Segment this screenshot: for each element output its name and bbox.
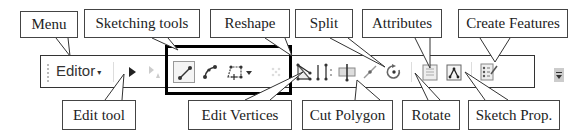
sketching-tools-highlight bbox=[165, 45, 292, 95]
editor-menu-button[interactable]: Editor▾ bbox=[56, 62, 101, 79]
vertical-reshape-button[interactable] bbox=[313, 61, 335, 83]
callout-rotate: Rotate bbox=[402, 100, 460, 130]
callout-sketch-prop: Sketch Prop. bbox=[468, 100, 560, 130]
separator bbox=[411, 62, 412, 82]
reshape-button[interactable] bbox=[293, 61, 315, 83]
callout-menu: Menu bbox=[20, 11, 78, 38]
callout-label: Cut Polygon bbox=[310, 107, 385, 123]
annotation-edit-tool-button[interactable] bbox=[143, 61, 165, 83]
create-features-icon bbox=[478, 61, 500, 83]
chevron-down-icon: ▾ bbox=[97, 68, 101, 77]
callout-create-features: Create Features bbox=[458, 9, 568, 38]
sketch-properties-button[interactable] bbox=[443, 61, 465, 83]
callout-label: Edit tool bbox=[73, 107, 125, 123]
toolbar-options-dropdown[interactable] bbox=[554, 68, 564, 82]
callout-cut-polygon: Cut Polygon bbox=[302, 100, 393, 130]
edit-tool-button[interactable] bbox=[121, 61, 143, 83]
cut-polygon-button[interactable] bbox=[336, 61, 358, 83]
callout-label: Attributes bbox=[372, 15, 432, 31]
split-button[interactable] bbox=[359, 61, 381, 83]
reshape-icon bbox=[293, 61, 315, 83]
create-features-button[interactable] bbox=[478, 61, 500, 83]
separator bbox=[471, 62, 472, 82]
callout-edit-vertices: Edit Vertices bbox=[188, 100, 292, 130]
editor-menu-label: Editor bbox=[56, 62, 95, 79]
split-icon bbox=[359, 61, 381, 83]
toolbar-grip-handle[interactable] bbox=[47, 64, 49, 82]
reshape-line-icon bbox=[313, 61, 335, 83]
callout-label: Reshape bbox=[225, 15, 276, 31]
callout-label: Split bbox=[310, 15, 338, 31]
sketch-properties-icon bbox=[443, 61, 465, 83]
attributes-button[interactable] bbox=[419, 61, 441, 83]
arrow-pointer-icon bbox=[121, 61, 143, 83]
attributes-icon bbox=[419, 61, 441, 83]
separator bbox=[113, 62, 114, 82]
callout-split: Split bbox=[295, 9, 353, 38]
callout-label: Sketching tools bbox=[96, 15, 189, 31]
callout-edit-tool: Edit tool bbox=[62, 100, 136, 130]
callout-sketching-tools: Sketching tools bbox=[84, 9, 200, 38]
rotate-button[interactable] bbox=[383, 61, 405, 83]
annotation-arrow-icon bbox=[143, 61, 165, 83]
cut-polygon-icon bbox=[336, 61, 358, 83]
callout-attributes: Attributes bbox=[362, 9, 442, 38]
callout-label: Edit Vertices bbox=[202, 107, 279, 123]
callout-label: Rotate bbox=[411, 107, 450, 123]
rotate-icon bbox=[383, 61, 405, 83]
callout-reshape: Reshape bbox=[210, 9, 290, 38]
callout-label: Menu bbox=[32, 16, 67, 32]
callout-label: Sketch Prop. bbox=[476, 107, 553, 123]
callout-label: Create Features bbox=[466, 15, 560, 31]
